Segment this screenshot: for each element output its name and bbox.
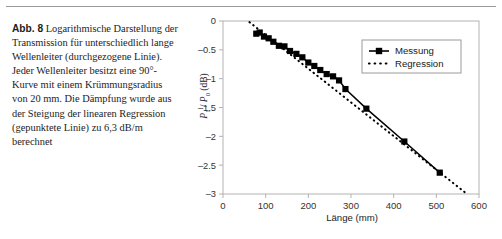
legend-marker-messung [376,48,382,54]
legend-label-regression: Regression [395,58,444,69]
measurement-marker [317,67,323,73]
measurement-marker [324,71,330,77]
x-axis-tick-label: 500 [428,200,444,211]
y-axis-title: P1 / P0 (dB) [199,51,211,141]
measurement-marker [363,106,369,112]
x-axis-tick-label: 600 [471,200,487,211]
y-axis-tick-label: 0 [211,16,216,26]
chart-container: P1 / P0 (dB) 0–0.5–1–1.5–2–2.5–301002003… [180,12,496,234]
measurement-marker [293,51,299,57]
figure-label: Abb. 8 [12,23,43,34]
measurement-marker [336,77,342,83]
measurement-marker [287,48,293,54]
measurement-marker [299,54,305,60]
legend-label-messung: Messung [395,45,434,56]
figure-caption-text: Logarithmische Darstellung der Transmiss… [12,23,178,147]
figure-page: Abb. 8 Logarithmische Darstellung der Tr… [0,0,502,239]
x-axis-tick-label: 300 [343,200,359,211]
chart-plot: 0–0.5–1–1.5–2–2.5–30100200300400500600Me… [180,12,496,212]
measurement-marker [281,43,287,49]
top-horizontal-rule [6,6,496,7]
measurement-marker [401,138,407,144]
measurement-marker [276,43,282,49]
measurement-marker [270,39,276,45]
measurement-marker [342,86,348,92]
x-axis-tick-label: 200 [300,200,316,211]
x-axis-tick-label: 0 [220,200,225,211]
x-axis-tick-label: 400 [386,200,402,211]
measurement-marker [305,59,311,65]
measurement-marker [330,73,336,79]
x-axis-tick-label: 100 [258,200,274,211]
figure-caption: Abb. 8 Logarithmische Darstellung der Tr… [12,22,180,149]
x-axis-title: Länge (mm) [222,212,482,223]
measurement-marker [437,170,443,176]
y-axis-tick-label: –3 [206,189,216,199]
y-axis-tick-label: –2.5 [198,161,216,171]
measurement-marker [311,63,317,69]
